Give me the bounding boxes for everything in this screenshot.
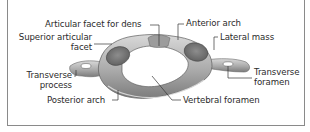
leader-lateral-mass	[214, 37, 218, 50]
label-articular-facet-for-dens: Articular facet for dens	[45, 19, 141, 29]
label-vertebral-foramen: Vertebral foramen	[183, 95, 260, 105]
label-transverse-foramen: Transverse foramen	[254, 67, 299, 87]
label-transverse-process: Transverse process	[10, 70, 72, 90]
label-anterior-arch: Anterior arch	[186, 18, 241, 28]
label-lateral-mass: Lateral mass	[220, 32, 274, 42]
label-superior-articular-facet: Superior articular facet	[12, 32, 92, 52]
label-posterior-arch: Posterior arch	[47, 95, 105, 105]
